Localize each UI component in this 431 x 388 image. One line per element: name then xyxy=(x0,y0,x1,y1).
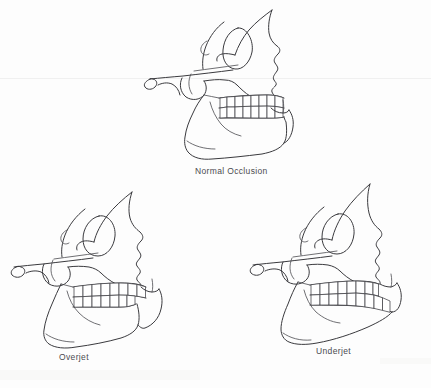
lower-teeth-row xyxy=(74,295,135,307)
panel-underjet: Underjet xyxy=(248,182,420,350)
lower-teeth-row xyxy=(220,106,283,118)
scan-smudge-artifact xyxy=(0,370,200,380)
caption-overjet: Overjet xyxy=(59,352,89,362)
occlusion-figure: Normal Occlusion xyxy=(0,0,431,388)
caption-underjet: Underjet xyxy=(316,346,351,356)
skull-drawing-overjet xyxy=(10,190,170,350)
scan-smudge-artifact xyxy=(380,358,431,364)
caption-normal-occlusion: Normal Occlusion xyxy=(195,166,268,176)
skull-drawing-underjet xyxy=(248,182,420,350)
skull-drawing-normal-occlusion xyxy=(138,8,298,168)
panel-overjet: Overjet xyxy=(10,190,170,350)
lower-teeth-row xyxy=(311,293,390,312)
panel-normal-occlusion: Normal Occlusion xyxy=(138,8,298,168)
